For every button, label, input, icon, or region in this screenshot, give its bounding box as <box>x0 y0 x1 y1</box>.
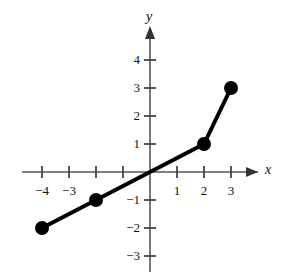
y-tick-label: −1 <box>118 193 140 206</box>
y-tick-label: 4 <box>118 53 140 66</box>
data-point-marker <box>197 137 211 151</box>
data-point-marker <box>35 221 49 235</box>
data-point-markers <box>35 81 238 235</box>
x-tick-label: 3 <box>223 184 239 197</box>
x-tick-label: 2 <box>196 184 212 197</box>
y-tick-label: 3 <box>118 81 140 94</box>
data-point-marker <box>89 193 103 207</box>
axis-lines <box>22 30 258 272</box>
x-axis-arrow-icon <box>246 167 258 177</box>
axis-arrowheads <box>145 26 258 177</box>
coordinate-plane <box>0 0 284 280</box>
x-axis-label: x <box>265 163 271 177</box>
y-tick-label: 1 <box>118 137 140 150</box>
y-tick-label: −3 <box>118 249 140 262</box>
x-tick-label: 1 <box>169 184 185 197</box>
x-tick-label: −4 <box>34 184 50 197</box>
graph-figure: −4−3123 4321−1−2−3 x y <box>0 0 284 280</box>
y-axis-label: y <box>146 10 152 24</box>
x-tick-label: −3 <box>61 184 77 197</box>
y-axis-arrow-icon <box>145 26 155 39</box>
y-tick-label: −2 <box>118 221 140 234</box>
y-tick-label: 2 <box>118 109 140 122</box>
data-point-marker <box>224 81 238 95</box>
